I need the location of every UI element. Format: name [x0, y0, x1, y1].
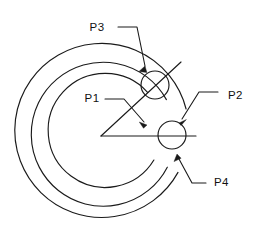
p4-leader-line	[179, 159, 206, 183]
p2-label: P2	[228, 89, 243, 101]
fillet-circle-group	[141, 71, 186, 149]
upper-intersection-circle	[141, 71, 169, 99]
p3-leader-line	[118, 27, 145, 66]
right-intersection-circle	[158, 121, 186, 149]
p4-label: P4	[214, 176, 229, 188]
inner-arc	[48, 73, 154, 187]
p4-leader: P4	[174, 154, 229, 188]
p2-leader-line	[182, 92, 218, 119]
concentric-arc-group	[15, 43, 186, 217]
technical-drawing-canvas: P3 P1 P2 P4	[0, 0, 256, 239]
p3-leader: P3	[90, 21, 147, 73]
p1-leader-line	[105, 99, 144, 122]
p3-arrowhead	[139, 66, 147, 73]
cad-drawing-svg: P3 P1 P2 P4	[0, 0, 256, 239]
p2-leader: P2	[179, 89, 243, 125]
outer-arc	[15, 43, 186, 217]
p2-arrowhead	[179, 120, 186, 126]
middle-arc	[31, 62, 167, 206]
p1-arrowhead	[139, 122, 147, 128]
p1-label: P1	[85, 92, 100, 104]
p3-label: P3	[90, 21, 105, 33]
